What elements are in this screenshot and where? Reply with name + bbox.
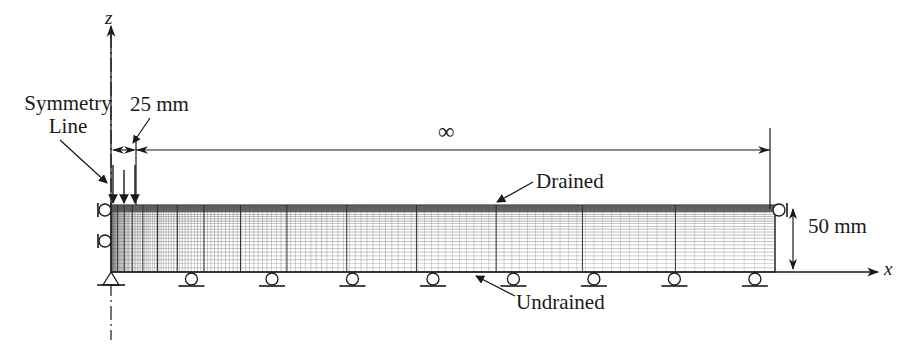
bottom-roller-supports (178, 273, 767, 286)
drained-boundary-label: Drained (536, 170, 604, 193)
symmetry-line-label-row2: Line (8, 115, 128, 138)
figure-canvas: Symmetry Line 25 mm ∞ Drained Undrained … (0, 0, 905, 357)
roller-support (339, 273, 365, 286)
roller-support (420, 273, 446, 286)
applied-load-arrows (113, 165, 135, 203)
undrained-boundary-label: Undrained (516, 291, 605, 314)
roller-support (500, 273, 526, 286)
roller-support (581, 273, 607, 286)
finite-element-mesh (111, 205, 775, 272)
roller-support (742, 273, 768, 286)
right-roller-support (773, 203, 787, 217)
infinite-extent-label: ∞ (438, 120, 454, 145)
roller-support (259, 273, 285, 286)
diagram-svg (0, 0, 905, 357)
depth-dimension-label: 50 mm (808, 215, 867, 238)
symmetry-line-leader (60, 140, 107, 183)
left-roller-2 (98, 234, 111, 248)
left-roller-1 (98, 203, 111, 217)
width-dimension-label: 25 mm (130, 93, 189, 116)
symmetry-line-label: Symmetry Line (8, 92, 128, 137)
pin-support (97, 272, 125, 285)
left-roller-supports (98, 203, 111, 248)
z-axis-label: z (105, 8, 112, 29)
roller-support (661, 273, 687, 286)
symmetry-line-label-row1: Symmetry (8, 92, 128, 115)
dimension-25mm-leader (133, 118, 150, 143)
depth-dimension-50mm (782, 207, 802, 269)
drained-leader (497, 182, 533, 202)
x-axis-label: x (884, 259, 892, 280)
roller-support (178, 273, 204, 286)
